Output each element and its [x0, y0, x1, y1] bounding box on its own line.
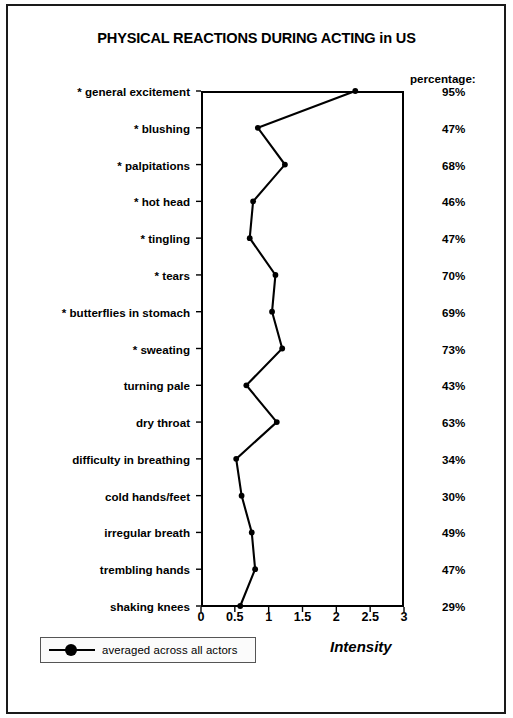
- percentage-value: 46%: [442, 195, 465, 208]
- category-label: * butterflies in stomach: [0, 305, 196, 318]
- category-label: * hot head: [0, 195, 196, 208]
- percentage-value: 70%: [442, 268, 465, 281]
- x-tick-label: 1: [265, 610, 272, 624]
- category-label: dry throat: [0, 416, 196, 429]
- category-label: * blushing: [0, 121, 196, 134]
- category-label: difficulty in breathing: [0, 452, 196, 465]
- category-label: * sweating: [0, 342, 196, 355]
- percentage-value: 49%: [442, 526, 465, 539]
- percentage-column-header: percentage:: [404, 72, 504, 85]
- series-averaged-across-all-actors: [233, 88, 358, 609]
- category-label: * tears: [0, 268, 196, 281]
- percentage-value: 34%: [442, 452, 465, 465]
- x-tick-label: 0: [197, 610, 204, 624]
- percentage-value: 30%: [442, 489, 465, 502]
- x-axis-tick-labels: 00.511.522.53: [201, 610, 404, 630]
- chart-title: PHYSICAL REACTIONS DURING ACTING in US: [0, 30, 513, 46]
- percentage-value: 43%: [442, 379, 465, 392]
- legend-label: averaged across all actors: [102, 644, 238, 656]
- category-label: shaking knees: [0, 600, 196, 613]
- legend-marker-icon: [49, 644, 95, 656]
- x-tick-label: 3: [400, 610, 407, 624]
- percentage-value: 69%: [442, 305, 465, 318]
- percentage-value: 47%: [442, 121, 465, 134]
- category-label: irregular breath: [0, 526, 196, 539]
- percentage-value: 47%: [442, 563, 465, 576]
- category-axis-labels: * general excitement* blushing* palpitat…: [0, 91, 196, 607]
- percentage-value: 29%: [442, 600, 465, 613]
- chart-legend: averaged across all actors: [40, 637, 256, 663]
- x-tick-label: 2: [333, 610, 340, 624]
- x-tick-label: 1.5: [294, 610, 312, 624]
- data-series-plot: [201, 91, 404, 607]
- x-axis-title: Intensity: [330, 638, 392, 655]
- percentage-value: 63%: [442, 416, 465, 429]
- category-label: * palpitations: [0, 158, 196, 171]
- category-label: trembling hands: [0, 563, 196, 576]
- percentage-column: 95%47%68%46%47%70%69%73%43%63%34%30%49%4…: [410, 91, 500, 607]
- percentage-value: 73%: [442, 342, 465, 355]
- percentage-value: 47%: [442, 232, 465, 245]
- percentage-value: 68%: [442, 158, 465, 171]
- category-label: * tingling: [0, 232, 196, 245]
- category-label: * general excitement: [0, 85, 196, 98]
- x-tick-label: 0.5: [226, 610, 244, 624]
- percentage-value: 95%: [442, 85, 465, 98]
- category-label: cold hands/feet: [0, 489, 196, 502]
- category-label: turning pale: [0, 379, 196, 392]
- x-tick-label: 2.5: [361, 610, 379, 624]
